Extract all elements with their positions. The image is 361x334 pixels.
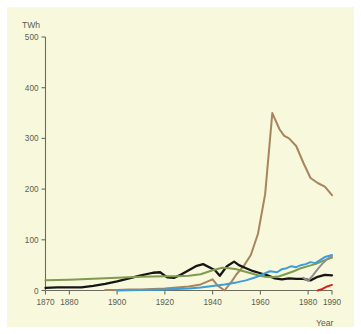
y-tick-label: 500 bbox=[25, 33, 39, 42]
x-tick-label: 1990 bbox=[323, 298, 342, 307]
x-tick-label: 1880 bbox=[60, 298, 79, 307]
y-tick-label: 300 bbox=[25, 134, 39, 143]
x-axis-title: Year bbox=[316, 318, 334, 328]
y-axis-title: TWh bbox=[22, 20, 40, 30]
x-tick-label: 1940 bbox=[204, 298, 223, 307]
y-tick-group: 0100200300400500 bbox=[25, 33, 46, 296]
chart-figure: 0100200300400500 18701880190019201940196… bbox=[0, 0, 361, 334]
y-tick-label: 400 bbox=[25, 84, 39, 93]
x-tick-label: 1960 bbox=[251, 298, 270, 307]
series-line-black-series bbox=[46, 262, 333, 288]
series-line-brown-series bbox=[105, 113, 332, 290]
x-tick-label: 1980 bbox=[299, 298, 318, 307]
series-line-red-series bbox=[318, 285, 332, 291]
y-tick-label: 100 bbox=[25, 236, 39, 245]
data-series-group bbox=[46, 113, 333, 290]
x-tick-label: 1870 bbox=[36, 298, 55, 307]
x-tick-label: 1920 bbox=[156, 298, 175, 307]
y-tick-label: 0 bbox=[34, 287, 39, 296]
line-chart: 0100200300400500 18701880190019201940196… bbox=[0, 0, 361, 334]
axis-group bbox=[46, 37, 333, 291]
y-tick-label: 200 bbox=[25, 185, 39, 194]
x-tick-group: 18701880190019201940196019801990 bbox=[36, 291, 341, 307]
x-tick-label: 1900 bbox=[108, 298, 127, 307]
